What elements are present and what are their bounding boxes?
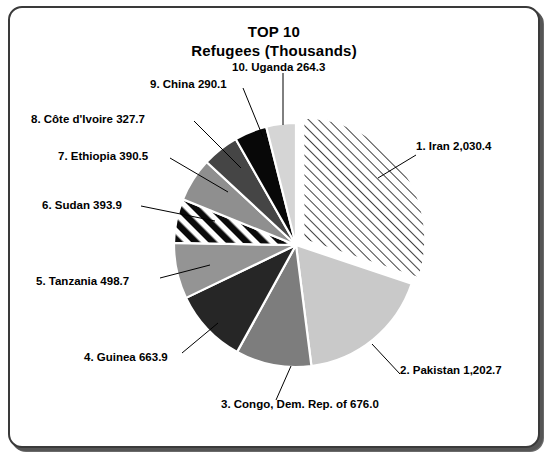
leader-line-3 — [276, 366, 291, 400]
pie-label-10: 10. Uganda 264.3 — [232, 61, 325, 74]
pie-label-2: 2. Pakistan 1,202.7 — [400, 364, 502, 377]
pie-label-6: 6. Sudan 393.9 — [42, 199, 122, 212]
pie-label-1: 1. Iran 2,030.4 — [416, 140, 491, 153]
pie-slices — [174, 118, 425, 367]
leader-line-4 — [182, 323, 218, 353]
pie-label-4: 4. Guinea 663.9 — [84, 351, 168, 364]
pie-label-5: 5. Tanzania 498.7 — [36, 275, 129, 288]
pie-label-8: 8. Côte d'Ivoire 327.7 — [31, 113, 145, 126]
leader-line-2 — [372, 344, 400, 374]
pie-label-3: 3. Congo, Dem. Rep. of 676.0 — [221, 398, 379, 411]
pie-label-7: 7. Ethiopia 390.5 — [58, 150, 148, 163]
pie-label-9: 9. China 290.1 — [150, 78, 227, 91]
